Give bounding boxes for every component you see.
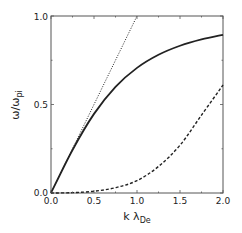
x-tick-labels: 0.0 0.5 1.0 1.5 2.0: [44, 196, 231, 206]
y-tick-label: 1.0: [34, 12, 49, 22]
ticks: [51, 16, 223, 193]
plot-area: [51, 16, 223, 193]
plot-frame: [51, 16, 223, 193]
y-tick-label: 0.0: [34, 188, 49, 198]
dashed-curve: [51, 85, 223, 193]
y-axis-label: ω/ωpi: [9, 90, 24, 119]
dispersion-chart: 0.0 0.5 1.0 1.5 2.0 0.0 0.5 1.0 k λDe ω/…: [0, 0, 242, 233]
y-tick-labels: 0.0 0.5 1.0: [34, 12, 49, 198]
x-axis-label: k λDe: [123, 210, 151, 225]
curves: [51, 16, 223, 193]
x-tick-label: 1.5: [173, 196, 187, 206]
solid-curve: [51, 35, 223, 193]
x-tick-label: 0.5: [87, 196, 101, 206]
x-tick-label: 1.0: [130, 196, 145, 206]
x-tick-label: 2.0: [216, 196, 231, 206]
y-tick-label: 0.5: [34, 100, 48, 110]
